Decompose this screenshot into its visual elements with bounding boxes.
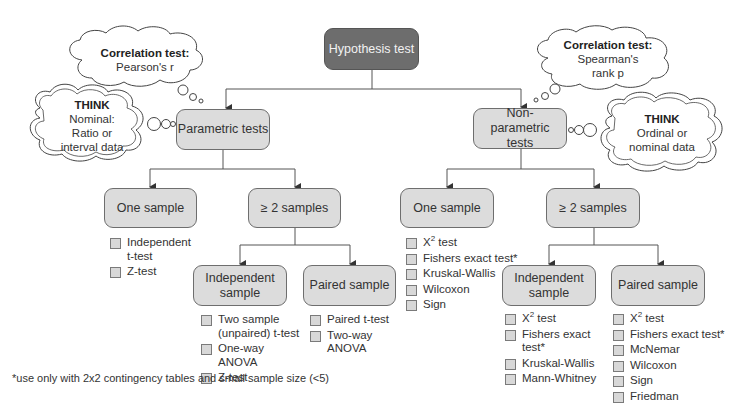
node-parametric-tests: Parametric tests <box>176 109 270 150</box>
checkbox-icon <box>613 330 624 341</box>
cloud-line: Nominal: <box>42 112 142 126</box>
test-label: Kruskal-Wallis <box>423 267 495 281</box>
list-item: Kruskal-Wallis <box>505 357 615 371</box>
list-item: Fishers exact test* <box>406 252 526 266</box>
checkbox-icon <box>310 331 321 342</box>
cloud-title: Correlation test: <box>90 46 200 60</box>
test-label: Fishers exact test* <box>630 328 725 342</box>
list-item: One-way ANOVA <box>201 342 301 369</box>
test-label: Paired t-test <box>327 313 389 327</box>
node-parametric-independent-sample: Independent sample <box>193 265 287 306</box>
list-item: Two-way ANOVA <box>310 329 410 356</box>
list-item: X2 test <box>406 236 526 250</box>
test-label: Fishers exact test* <box>423 252 518 266</box>
checkbox-icon <box>406 238 417 249</box>
node-parametric-paired-sample: Paired sample <box>303 265 396 306</box>
node-parametric-one-sample: One sample <box>104 188 197 228</box>
test-label: Two-way ANOVA <box>327 329 410 356</box>
list-item: X2 test <box>505 312 615 326</box>
checkbox-icon <box>613 345 624 356</box>
test-label: Fishers exact test* <box>522 328 615 355</box>
list-item: Fishers exact test* <box>505 328 615 355</box>
test-label: Two sample (unpaired) t-test <box>218 313 301 340</box>
checkbox-icon <box>201 315 212 326</box>
cloud-line: rank p <box>548 66 668 80</box>
cloud-line: Spearman's <box>548 52 668 66</box>
list-item: Wilcoxon <box>406 283 526 297</box>
test-label: Independent t-test <box>127 236 200 263</box>
test-label: Sign <box>423 298 446 312</box>
cloud-think-left-text: THINK Nominal: Ratio or interval data <box>42 98 142 154</box>
checkbox-icon <box>505 359 516 370</box>
test-label: Z-test <box>127 265 156 279</box>
list-nonparametric-independent: X2 test Fishers exact test* Kruskal-Wall… <box>505 312 615 388</box>
cloud-think-right-text: THINK Ordinal or nominal data <box>612 112 712 154</box>
list-item: Fishers exact test* <box>613 328 738 342</box>
node-nonparametric-tests: Non-parametric tests <box>473 108 567 149</box>
test-label: One-way ANOVA <box>218 342 301 369</box>
checkbox-icon <box>110 267 121 278</box>
test-label: X2 test <box>423 236 457 250</box>
list-item: Wilcoxon <box>613 359 738 373</box>
checkbox-icon <box>406 254 417 265</box>
checkbox-icon <box>505 330 516 341</box>
checkbox-icon <box>201 344 212 355</box>
cloud-correlation-left-text: Correlation test: Pearson's r <box>90 46 200 74</box>
cloud-title: THINK <box>612 112 712 126</box>
cloud-line: interval data <box>42 140 142 154</box>
list-item: X2 test <box>613 312 738 326</box>
cloud-correlation-right-text: Correlation test: Spearman's rank p <box>548 38 668 80</box>
list-item: Mann-Whitney <box>505 372 615 386</box>
checkbox-icon <box>110 238 121 249</box>
list-item: Two sample (unpaired) t-test <box>201 313 301 340</box>
node-nonparametric-two-plus-samples: ≥ 2 samples <box>546 188 640 228</box>
list-item: Sign <box>406 298 526 312</box>
test-label: Wilcoxon <box>423 283 470 297</box>
test-label: McNemar <box>630 343 680 357</box>
cloud-line: Ordinal or <box>612 126 712 140</box>
list-item: Z-test <box>110 265 200 279</box>
test-label: X2 test <box>522 312 556 326</box>
list-item: Kruskal-Wallis <box>406 267 526 281</box>
checkbox-icon <box>613 392 624 403</box>
test-label: Wilcoxon <box>630 359 677 373</box>
list-nonparametric-paired: X2 test Fishers exact test* McNemar Wilc… <box>613 312 738 405</box>
test-label: Mann-Whitney <box>522 372 596 386</box>
checkbox-icon <box>505 374 516 385</box>
node-nonparametric-one-sample: One sample <box>400 188 494 228</box>
checkbox-icon <box>613 361 624 372</box>
cloud-line: nominal data <box>612 140 712 154</box>
checkbox-icon <box>406 285 417 296</box>
list-parametric-paired: Paired t-test Two-way ANOVA <box>310 313 410 358</box>
checkbox-icon <box>505 314 516 325</box>
list-item: Paired t-test <box>310 313 410 327</box>
node-parametric-two-plus-samples: ≥ 2 samples <box>248 188 341 228</box>
checkbox-icon <box>613 314 624 325</box>
list-item: Friedman <box>613 390 738 404</box>
footnote: *use only with 2x2 contingency tables an… <box>12 372 329 384</box>
list-nonparametric-one-sample: X2 test Fishers exact test* Kruskal-Wall… <box>406 236 526 314</box>
test-label: Sign <box>630 374 653 388</box>
test-label: X2 test <box>630 312 664 326</box>
list-parametric-one-sample: Independent t-test Z-test <box>110 236 200 281</box>
node-nonparametric-paired-sample: Paired sample <box>611 265 705 306</box>
cloud-title: THINK <box>42 98 142 112</box>
cloud-line: Ratio or <box>42 126 142 140</box>
checkbox-icon <box>310 315 321 326</box>
test-label: Kruskal-Wallis <box>522 357 594 371</box>
cloud-title: Correlation test: <box>548 38 668 52</box>
list-item: McNemar <box>613 343 738 357</box>
list-item: Independent t-test <box>110 236 200 263</box>
checkbox-icon <box>406 269 417 280</box>
node-hypothesis-test: Hypothesis test <box>324 28 419 70</box>
checkbox-icon <box>406 300 417 311</box>
checkbox-icon <box>613 376 624 387</box>
test-label: Friedman <box>630 390 679 404</box>
list-item: Sign <box>613 374 738 388</box>
cloud-body: Pearson's r <box>116 61 174 73</box>
